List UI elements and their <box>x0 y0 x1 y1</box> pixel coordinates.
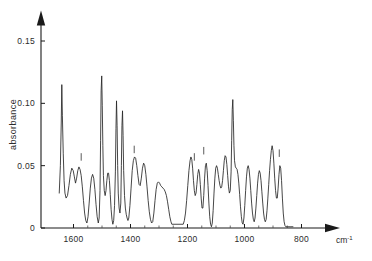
x-tick-label-group: 1600140012001000800 <box>63 234 309 244</box>
axes-group <box>37 11 340 233</box>
y-tick-label: 0 <box>30 223 35 233</box>
spectrum-plot: 00.050.100.15 1600140012001000800 absorb… <box>0 0 372 261</box>
x-tick-label: 1000 <box>234 234 254 244</box>
annotation-marker-group <box>81 146 279 161</box>
y-axis-arrowhead <box>37 11 45 26</box>
y-tick-label-group: 00.050.100.15 <box>17 36 35 233</box>
x-tick-label: 1600 <box>63 234 83 244</box>
x-tick-label: 1200 <box>177 234 197 244</box>
x-tick-label: 1400 <box>120 234 140 244</box>
x-tick-group <box>74 224 302 228</box>
absorbance-trace <box>59 76 293 227</box>
y-tick-group <box>41 41 45 228</box>
y-tick-label: 0.15 <box>17 36 35 46</box>
x-axis-unit: cm-1 <box>336 235 353 246</box>
y-axis-title: absorbance <box>8 99 18 150</box>
x-axis-arrowhead <box>325 224 340 232</box>
x-tick-label: 800 <box>294 234 309 244</box>
y-tick-label: 0.05 <box>17 161 35 171</box>
y-tick-label: 0.10 <box>17 98 35 108</box>
ir-spectrum-figure: 00.050.100.15 1600140012001000800 absorb… <box>0 0 372 261</box>
